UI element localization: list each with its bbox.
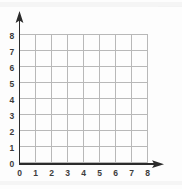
y-tick-label-4: 4 xyxy=(4,96,14,105)
y-tick-label-0: 0 xyxy=(4,160,14,169)
x-tick-label-5: 5 xyxy=(94,169,106,178)
y-tick-label-1: 1 xyxy=(4,144,14,153)
x-tick-label-7: 7 xyxy=(126,169,138,178)
x-tick-label-3: 3 xyxy=(62,169,74,178)
graph-screenshot: 0 1 2 3 4 5 6 7 8 0 1 2 3 4 5 6 7 8 xyxy=(0,0,182,189)
grid-canvas xyxy=(0,0,182,189)
y-tick-label-8: 8 xyxy=(4,32,14,41)
x-tick-label-0: 0 xyxy=(14,169,26,178)
x-tick-label-4: 4 xyxy=(78,169,90,178)
y-tick-label-7: 7 xyxy=(4,48,14,57)
x-tick-label-2: 2 xyxy=(46,169,58,178)
y-axis xyxy=(16,11,24,164)
coordinate-plot: 0 1 2 3 4 5 6 7 8 0 1 2 3 4 5 6 7 8 xyxy=(0,0,182,189)
x-tick-label-6: 6 xyxy=(110,169,122,178)
y-tick-label-2: 2 xyxy=(4,128,14,137)
x-tick-label-8: 8 xyxy=(142,169,154,178)
y-tick-label-6: 6 xyxy=(4,64,14,73)
x-axis xyxy=(19,160,164,168)
y-tick-label-5: 5 xyxy=(4,80,14,89)
y-tick-label-3: 3 xyxy=(4,112,14,121)
x-tick-label-1: 1 xyxy=(30,169,42,178)
